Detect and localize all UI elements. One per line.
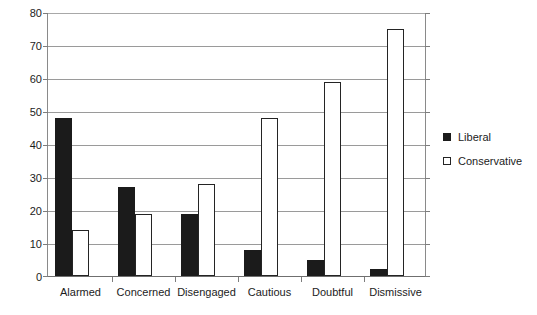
y-axis-tick-label: 60 [2,74,42,85]
x-axis-label-concerned: Concerned [112,286,175,298]
x-axis-label-alarmed: Alarmed [49,286,112,298]
y-tick-mark [43,276,48,277]
chart-legend: Liberal Conservative [443,131,522,179]
bar-group-disengaged [176,13,239,277]
x-tick-mark [238,277,239,282]
y-axis-tick-label: 50 [2,107,42,118]
bar-liberal-dismissive [370,269,387,276]
chart-title-clipped [0,0,537,6]
y-axis-tick-label: 40 [2,140,42,151]
y-tick-mark [43,145,48,146]
plot-area [47,13,426,277]
bar-liberal-concerned [118,187,135,276]
x-tick-mark [301,277,302,282]
x-tick-mark [175,277,176,282]
x-axis-label-cautious: Cautious [238,286,301,298]
bar-conservative-doubtful [324,82,341,276]
y-tick-mark [43,178,48,179]
legend-label-conservative: Conservative [458,155,522,167]
bar-group-cautious [239,13,302,277]
bar-chart: 80 70 60 50 40 30 20 10 0 [0,0,537,315]
bar-group-dismissive [365,13,428,277]
bar-liberal-disengaged [181,214,198,276]
bar-conservative-dismissive [387,29,404,276]
y-tick-mark [43,244,48,245]
bar-liberal-alarmed [55,118,72,276]
legend-item-conservative: Conservative [443,155,522,167]
bar-conservative-disengaged [198,184,215,276]
y-tick-mark [43,46,48,47]
x-axis-label-doubtful: Doubtful [301,286,364,298]
legend-label-liberal: Liberal [458,131,491,143]
y-axis-tick-label: 0 [2,272,42,283]
y-tick-mark [43,112,48,113]
hollow-square-icon [443,157,451,165]
x-tick-mark [364,277,365,282]
bar-group-doubtful [302,13,365,277]
bar-conservative-concerned [135,214,152,276]
y-tick-mark [43,13,48,14]
bar-liberal-doubtful [307,260,324,276]
y-axis-tick-label: 10 [2,239,42,250]
x-axis-label-dismissive: Dismissive [364,286,427,298]
bar-group-alarmed [50,13,113,277]
bar-conservative-cautious [261,118,278,276]
x-tick-mark [112,277,113,282]
y-tick-mark [43,79,48,80]
y-tick-mark [43,211,48,212]
bar-group-concerned [113,13,176,277]
y-axis-tick-label: 80 [2,8,42,19]
bar-conservative-alarmed [72,230,89,276]
y-axis-tick-label: 30 [2,173,42,184]
filled-square-icon [443,133,451,141]
x-axis-label-disengaged: Disengaged [175,286,238,298]
y-axis-tick-label: 20 [2,206,42,217]
legend-item-liberal: Liberal [443,131,522,143]
bar-liberal-cautious [244,250,261,276]
y-axis-tick-label: 70 [2,41,42,52]
